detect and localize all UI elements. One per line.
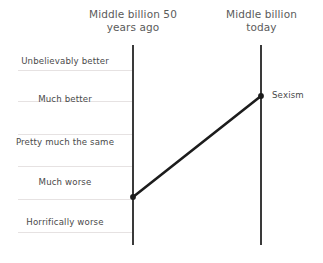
y-label-pretty-much-the-same: Pretty much the same xyxy=(5,137,125,147)
y-label-unbelievably-better: Unbelievably better xyxy=(5,56,125,66)
gridline xyxy=(18,199,132,200)
gridline xyxy=(18,134,132,135)
gridline xyxy=(18,166,132,167)
gridline xyxy=(18,70,132,71)
slope-line xyxy=(133,96,261,197)
axis-line-left xyxy=(132,45,134,245)
slope-chart: Middle billion 50 years ago Middle billi… xyxy=(0,0,323,263)
column-header-right: Middle billion today xyxy=(204,8,319,34)
y-label-horrifically-worse: Horrifically worse xyxy=(5,217,125,227)
series-label-sexism: Sexism xyxy=(272,90,304,100)
y-label-much-worse: Much worse xyxy=(5,177,125,187)
y-label-much-better: Much better xyxy=(5,94,125,104)
axis-line-right xyxy=(260,45,262,245)
gridline xyxy=(18,232,132,233)
column-header-left: Middle billion 50 years ago xyxy=(63,8,203,34)
